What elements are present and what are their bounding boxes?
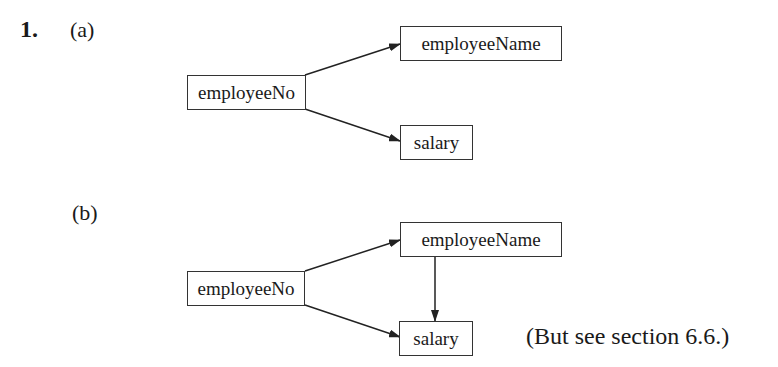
part-a-employeeName-box: employeeName: [400, 26, 562, 61]
part-b-employeeNo-box: employeeNo: [187, 271, 305, 306]
arrow-a-no-to-name: [305, 44, 400, 75]
part-b-salary-box: salary: [399, 321, 473, 356]
part-a-label: (a): [70, 17, 94, 43]
node-label: employeeNo: [198, 83, 295, 102]
node-label: employeeName: [421, 34, 540, 53]
part-a-salary-box: salary: [400, 125, 473, 160]
part-a-employeeNo-box: employeeNo: [187, 75, 306, 110]
section-reference-note: (But see section 6.6.): [526, 323, 729, 350]
arrow-b-no-to-name: [305, 240, 400, 271]
question-number: 1.: [20, 16, 38, 43]
node-label: salary: [414, 133, 459, 152]
node-label: salary: [413, 329, 458, 348]
node-label: employeeNo: [197, 279, 294, 298]
part-b-employeeName-box: employeeName: [400, 222, 562, 257]
dependency-arrows: [0, 0, 778, 367]
arrow-b-no-to-salary: [305, 305, 400, 337]
node-label: employeeName: [421, 230, 540, 249]
part-b-label: (b): [72, 200, 98, 226]
arrow-a-no-to-salary: [305, 109, 400, 141]
